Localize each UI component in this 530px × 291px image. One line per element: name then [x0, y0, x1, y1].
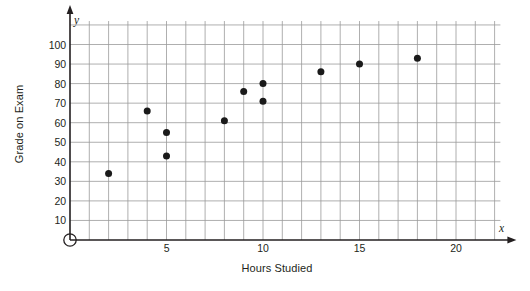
x-axis-title-text: Hours Studied: [241, 262, 312, 274]
data-point: [260, 80, 267, 87]
y-tick-label: 100: [36, 40, 66, 51]
data-point: [356, 61, 363, 68]
x-axis-title: Hours Studied: [0, 262, 530, 274]
data-point: [414, 55, 421, 62]
y-tick-label: 80: [36, 79, 66, 90]
x-variable-label: x: [499, 222, 504, 234]
data-point: [240, 88, 247, 95]
x-tick-label: 20: [439, 243, 473, 254]
y-axis-title: Grade on Exam: [13, 59, 25, 189]
x-tick-label: 10: [246, 243, 280, 254]
data-point: [317, 68, 324, 75]
data-point: [163, 129, 170, 136]
x-axis-tick-labels: 5101520: [0, 243, 530, 257]
scatter-plot-figure: y x 102030405060708090100 5101520 Hours …: [0, 0, 530, 291]
y-tick-label: 20: [36, 196, 66, 207]
data-points: [70, 25, 495, 240]
data-point: [163, 152, 170, 159]
data-point: [221, 117, 228, 124]
data-point: [105, 170, 112, 177]
y-tick-label: 90: [36, 59, 66, 70]
x-tick-label: 15: [343, 243, 377, 254]
x-tick-label: 5: [150, 243, 184, 254]
y-tick-label: 40: [36, 157, 66, 168]
data-point: [260, 98, 267, 105]
y-tick-label: 60: [36, 118, 66, 129]
y-tick-label: 50: [36, 137, 66, 148]
plot-area: [70, 25, 495, 240]
y-tick-label: 30: [36, 176, 66, 187]
y-tick-label: 70: [36, 98, 66, 109]
y-tick-label: 10: [36, 215, 66, 226]
data-point: [144, 107, 151, 114]
